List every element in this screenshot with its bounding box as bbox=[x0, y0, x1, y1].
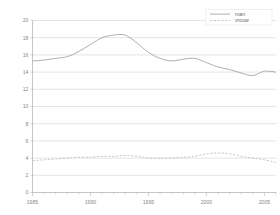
y-axis-tick-label: 20 bbox=[23, 17, 29, 23]
y-axis-tick-label: 2 bbox=[26, 172, 29, 178]
x-axis-tick-label: 2005 bbox=[259, 199, 271, 205]
y-axis-tick-label: 6 bbox=[26, 138, 29, 144]
y-axis-tick-label: 0 bbox=[26, 189, 29, 195]
y-axis-tick-label: 12 bbox=[23, 86, 29, 92]
x-axis-tick-label: 1995 bbox=[143, 199, 155, 205]
gridlines-group bbox=[33, 21, 277, 176]
y-axis-tick-label: 18 bbox=[23, 35, 29, 41]
y-axis-tick-label: 10 bbox=[23, 103, 29, 109]
chart-canvas: 02468101214161820 19851990199520002005 m… bbox=[0, 0, 280, 215]
line-chart: 02468101214161820 19851990199520002005 m… bbox=[0, 0, 280, 215]
y-axis-group: 02468101214161820 bbox=[23, 17, 33, 195]
series-group bbox=[33, 34, 277, 162]
legend-label-man: man bbox=[235, 11, 245, 17]
chart-legend: manvrouw bbox=[206, 10, 272, 26]
x-axis-group: 19851990199520002005 bbox=[27, 193, 276, 205]
y-axis-tick-label: 16 bbox=[23, 52, 29, 58]
series-line-vrouw bbox=[33, 153, 277, 162]
x-axis-tick-label: 1990 bbox=[85, 199, 97, 205]
x-axis-tick-label: 1985 bbox=[27, 199, 39, 205]
y-axis-tick-label: 4 bbox=[26, 155, 29, 161]
y-axis-tick-label: 8 bbox=[26, 121, 29, 127]
y-axis-tick-label: 14 bbox=[23, 69, 29, 75]
x-axis-tick-label: 2000 bbox=[201, 199, 213, 205]
legend-label-vrouw: vrouw bbox=[235, 17, 249, 23]
